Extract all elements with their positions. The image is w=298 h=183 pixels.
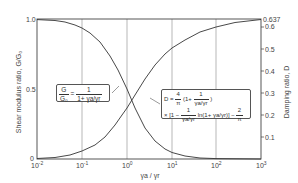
eq2-inverse-ratio-2: 1 γa/γr <box>181 107 196 123</box>
x-tick-1e3: 103 <box>256 160 267 169</box>
eq2-ln-term: ln(1+ γa/γr)] − <box>198 112 237 118</box>
eq1-rhs: 1 1+ γa/γr <box>76 86 101 103</box>
y2-tick-0.637: 0.637 <box>263 16 281 23</box>
x-tick-1e-1: 10-1 <box>76 160 88 169</box>
eq2-inv-num: 1 <box>194 91 209 100</box>
x-tick-1e0: 100 <box>122 160 133 169</box>
x-tick-1e-2: 10-2 <box>31 160 43 169</box>
eq2-frac-num: 4 <box>175 91 181 100</box>
eq1-rhs-den: 1+ γa/γr <box>76 95 101 103</box>
eq2-times-bracket: × [1 − <box>164 112 181 118</box>
eq1-lhs-den: G₀ <box>59 95 69 103</box>
y2-tick-0.5: 0.5 <box>265 46 275 53</box>
eq2-inv-den: γa/γr <box>194 100 209 108</box>
eq2-2-over-pi: 2 π <box>236 107 242 123</box>
eq2-inv2-den: γa/γr <box>181 116 196 124</box>
eq2-line1: D = 4 π (1+ 1 γa/γr ) <box>164 91 248 107</box>
eq1-equals: = <box>71 90 75 97</box>
y-tick-0.5: 0.5 <box>26 86 36 93</box>
eq2-inverse-ratio: 1 γa/γr <box>194 91 209 107</box>
eq2-paren-open: (1+ <box>183 96 192 102</box>
y2-tick-0.3: 0.3 <box>265 90 275 97</box>
chart: 1.0 0.5 0 0.637 0.6 0.5 0.4 0.3 0.2 0.1 … <box>0 0 298 183</box>
eq1-rhs-num: 1 <box>76 86 101 95</box>
right-axis-ticks <box>261 27 264 137</box>
x-axis-label: γa / γr <box>140 172 160 180</box>
x-tick-1e2: 102 <box>211 160 222 169</box>
y2-tick-0.1: 0.1 <box>265 134 275 141</box>
eq2-line2: × [1 − 1 γa/γr ln(1+ γa/γr)] − 2 π <box>164 107 248 123</box>
y-right-axis-label: Damping ratio, D <box>283 66 291 119</box>
eq2-frac-den: π <box>175 100 181 108</box>
eq1-lhs: G G₀ <box>59 86 69 103</box>
x-tick-1e1: 101 <box>167 160 178 169</box>
eq1-lhs-num: G <box>59 86 69 95</box>
eq2-d-equals: D = <box>164 96 175 102</box>
y2-tick-0.4: 0.4 <box>265 68 275 75</box>
eq2-inv2-num: 1 <box>181 107 196 116</box>
y2-tick-0.6: 0.6 <box>265 23 275 30</box>
eq2-4-over-pi: 4 π <box>175 91 181 107</box>
y-left-axis-label: Shear modulus ratio, G/G₀ <box>15 51 22 133</box>
eq2-paren-close: ) <box>210 96 212 102</box>
eq2-2pi-num: 2 <box>236 107 242 116</box>
y2-tick-0.2: 0.2 <box>265 112 275 119</box>
eq1-leader <box>112 86 119 93</box>
y-tick-0: 0 <box>30 155 34 162</box>
eq2-2pi-den: π <box>236 116 242 124</box>
shear-modulus-equation-box: G G₀ = 1 1+ γa/γr <box>56 84 110 102</box>
damping-equation-box: D = 4 π (1+ 1 γa/γr ) × [1 − 1 γa/γr ln(… <box>161 89 251 119</box>
y-tick-1.0: 1.0 <box>26 16 36 23</box>
eq2-leader <box>150 98 160 104</box>
